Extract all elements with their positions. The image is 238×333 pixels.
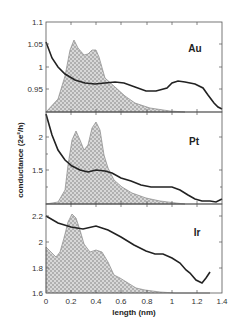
au-ytick-1: 1.1 bbox=[32, 18, 44, 27]
pt-ytick-1: 2 bbox=[39, 133, 44, 142]
panel-label-ir: Ir bbox=[194, 227, 201, 238]
panel-ir: 2.2 2 1.8 1.6 Ir bbox=[32, 204, 222, 298]
xtick-5: 1 bbox=[170, 297, 175, 306]
au-ytick-4: 0.95 bbox=[27, 85, 43, 94]
panel-pt: 2 1.5 Pt bbox=[32, 112, 222, 204]
ir-ytick-3: 1.8 bbox=[32, 264, 44, 273]
pt-ytick-2: 1.5 bbox=[32, 166, 44, 175]
xtick-3: 0.6 bbox=[115, 297, 127, 306]
ir-histogram-area bbox=[46, 214, 210, 293]
xtick-6: 1.2 bbox=[191, 297, 203, 306]
au-ytick-3: 1 bbox=[39, 63, 44, 72]
x-axis-label: length (nm) bbox=[112, 308, 156, 317]
xtick-7: 1.4 bbox=[216, 297, 228, 306]
ir-ytick-1: 2.2 bbox=[32, 212, 44, 221]
conductance-length-figure: 1.1 1.05 1 0.95 Au 2 1.5 Pt 2.2 2 bbox=[0, 0, 238, 333]
au-ytick-2: 1.05 bbox=[27, 40, 43, 49]
panel-label-au: Au bbox=[188, 43, 201, 54]
xtick-0: 0 bbox=[44, 297, 49, 306]
ir-ytick-4: 1.6 bbox=[32, 289, 44, 298]
panel-au: 1.1 1.05 1 0.95 Au bbox=[27, 18, 222, 112]
panel-label-pt: Pt bbox=[189, 136, 200, 147]
ir-ytick-2: 2 bbox=[39, 238, 44, 247]
xtick-2: 0.4 bbox=[90, 297, 102, 306]
pt-histogram-area bbox=[46, 122, 185, 204]
xtick-1: 0.2 bbox=[65, 297, 77, 306]
y-axis-label: conductance (2e²/h) bbox=[16, 122, 25, 198]
x-axis: 0 0.2 0.4 0.6 0.8 1 1.2 1.4 length (nm) bbox=[44, 297, 228, 317]
xtick-4: 0.8 bbox=[141, 297, 153, 306]
